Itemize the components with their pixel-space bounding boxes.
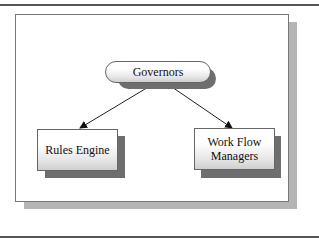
rules-engine-label: Rules Engine xyxy=(45,143,109,157)
governors-node: Governors xyxy=(105,61,211,83)
work-flow-managers-node: Work Flow Managers xyxy=(194,128,275,170)
work-flow-managers-label-line2: Managers xyxy=(211,149,258,163)
rules-engine-node: Rules Engine xyxy=(37,129,118,171)
governors-label: Governors xyxy=(133,65,184,79)
work-flow-managers-label-line1: Work Flow xyxy=(207,135,261,149)
connector-lines xyxy=(0,0,319,240)
edge-governors-rules-engine xyxy=(80,83,155,128)
edge-governors-work-flow-managers xyxy=(166,83,232,128)
